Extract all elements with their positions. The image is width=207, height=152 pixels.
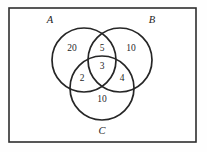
set-label-a: A	[46, 14, 54, 25]
universal-set-frame	[9, 8, 196, 142]
venn-diagram-figure: A B C 20 5 10 2 3 4 10	[0, 0, 207, 152]
region-count-ac-only: 2	[80, 73, 85, 83]
region-count-a-only: 20	[67, 43, 77, 53]
set-label-b: B	[149, 14, 156, 25]
region-count-bc-only: 4	[120, 73, 125, 83]
venn-diagram-canvas: A B C 20 5 10 2 3 4 10	[0, 0, 207, 152]
region-count-b-only: 10	[126, 43, 136, 53]
region-count-abc: 3	[100, 61, 105, 71]
region-count-c-only: 10	[97, 94, 107, 104]
region-count-ab-only: 5	[100, 43, 105, 53]
set-label-c: C	[98, 125, 106, 136]
